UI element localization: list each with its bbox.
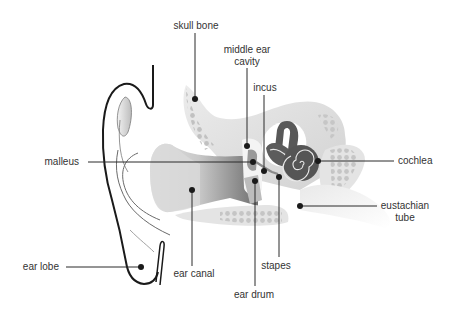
label-stapes: stapes (261, 260, 290, 272)
label-ear-drum: ear drum (234, 289, 274, 301)
label-malleus: malleus (45, 156, 79, 168)
label-eustachian-tube-line1: eustachian (381, 200, 429, 212)
dot-incus (261, 168, 267, 174)
label-middle-ear-cavity-line2: cavity (224, 56, 271, 68)
label-skull-bone: skull bone (173, 20, 218, 32)
dot-ear-canal (189, 187, 195, 193)
dot-middle-ear-cavity (244, 143, 250, 149)
label-middle-ear-cavity: middle ear cavity (224, 44, 271, 68)
dot-stapes (276, 174, 282, 180)
label-ear-lobe: ear lobe (23, 261, 59, 273)
dot-ear-lobe (138, 264, 144, 270)
label-eustachian-tube-line2: tube (381, 212, 429, 224)
label-eustachian-tube: eustachian tube (381, 200, 429, 224)
dot-cochlea (315, 158, 321, 164)
dot-skull-bone (192, 96, 198, 102)
label-cochlea: cochlea (398, 155, 432, 167)
dot-malleus (250, 159, 256, 165)
dot-eustachian-tube (297, 203, 303, 209)
label-incus: incus (253, 82, 276, 94)
label-middle-ear-cavity-line1: middle ear (224, 44, 271, 56)
label-ear-canal: ear canal (173, 268, 214, 280)
dot-ear-drum (252, 178, 258, 184)
